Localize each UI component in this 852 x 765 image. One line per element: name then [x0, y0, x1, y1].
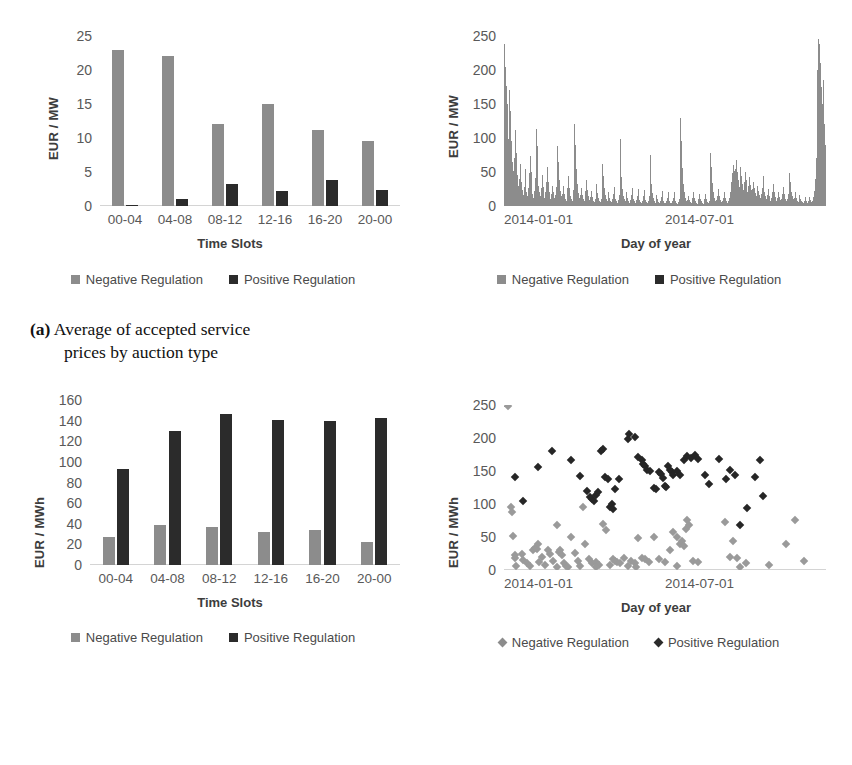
chart-a-bar[interactable]	[126, 205, 138, 206]
chart-c-ytick: 100	[59, 454, 82, 470]
chart-c-ytick: 60	[66, 495, 82, 511]
chart-d-scatter-point	[646, 467, 654, 475]
chart-d-ytick: 150	[473, 463, 496, 479]
chart-a-plot-area	[100, 36, 400, 206]
chart-c-legend-item-positive[interactable]: Positive Regulation	[229, 630, 355, 645]
chart-a-bar[interactable]	[176, 199, 188, 206]
chart-d-scatter-point	[704, 480, 712, 488]
chart-c-bar[interactable]	[258, 532, 270, 565]
chart-d-scatter-point	[666, 546, 674, 554]
chart-a-bar-group	[150, 36, 200, 206]
chart-d-scatter-point	[764, 560, 772, 568]
chart-b-legend-item-positive[interactable]: Positive Regulation	[655, 272, 781, 287]
chart-c-legend-label: Negative Regulation	[86, 630, 203, 645]
chart-a-bar[interactable]	[112, 50, 124, 206]
chart-a-bar-group	[100, 36, 150, 206]
chart-c-bar[interactable]	[220, 414, 232, 565]
chart-a-bar[interactable]	[212, 124, 224, 206]
chart-a-bar[interactable]	[312, 130, 324, 206]
chart-a-bar[interactable]	[362, 141, 374, 206]
chart-d-scatter-point	[676, 471, 684, 479]
chart-a-xtick: 04-08	[158, 212, 193, 227]
chart-a-ytick: 15	[76, 96, 92, 112]
chart-d-legend-item-negative[interactable]: Negative Regulation	[499, 635, 629, 650]
chart-a-xtick: 08-12	[208, 212, 243, 227]
chart-c-yticks: 020406080100120140160	[38, 400, 82, 565]
chart-d-scatter-point	[782, 539, 790, 547]
chart-c-ytick: 160	[59, 392, 82, 408]
square-swatch-icon	[71, 275, 80, 284]
chart-c-bar-group	[90, 400, 142, 565]
chart-a-legend-item-negative[interactable]: Negative Regulation	[71, 272, 203, 287]
chart-b-ytick: 50	[480, 164, 496, 180]
chart-a-bar[interactable]	[226, 184, 238, 206]
chart-b: EUR / MW 050100150200250 2014-01-012014-…	[426, 0, 852, 300]
chart-a-bar-group	[200, 36, 250, 206]
chart-c-bar-group	[297, 400, 349, 565]
chart-c-bar[interactable]	[361, 542, 373, 565]
chart-a-bar-group	[350, 36, 400, 206]
chart-d-scatter-point	[567, 533, 575, 541]
chart-c-ytick: 0	[74, 557, 82, 573]
chart-d-scatter-point	[547, 446, 555, 454]
chart-c-bar[interactable]	[117, 469, 129, 565]
chart-b-xtick: 2014-07-01	[665, 212, 734, 227]
chart-d-legend: Negative RegulationPositive Regulation	[446, 635, 832, 650]
chart-d-scatter-point	[729, 537, 737, 545]
chart-b-ytick: 100	[473, 130, 496, 146]
chart-c-xtick: 12-16	[254, 571, 289, 586]
chart-c-ytick: 140	[59, 413, 82, 429]
chart-d-scatter-point	[519, 497, 527, 505]
chart-c-bar-group	[142, 400, 194, 565]
chart-a-ytick: 20	[76, 62, 92, 78]
chart-c-bar[interactable]	[375, 418, 387, 565]
chart-d-scatter-point	[567, 456, 575, 464]
chart-d-scatter-point	[611, 485, 619, 493]
chart-d-scatter-point	[604, 475, 612, 483]
chart-b-xlabel: Day of year	[486, 236, 826, 251]
chart-c-plot-area	[90, 400, 400, 565]
chart-a-legend-label: Negative Regulation	[86, 272, 203, 287]
chart-d-scatter-point	[736, 521, 744, 529]
chart-c-bar[interactable]	[324, 421, 336, 565]
chart-a-bar-group	[300, 36, 350, 206]
chart-c-bar[interactable]	[169, 431, 181, 565]
chart-c-bar-group	[348, 400, 400, 565]
chart-a-bar[interactable]	[326, 180, 338, 206]
chart-a-bar[interactable]	[276, 191, 288, 206]
panel-d: EUR / MWh 050100150200250 2014-01-012014…	[426, 395, 852, 765]
chart-c-bar[interactable]	[103, 537, 115, 565]
chart-d-legend-item-positive[interactable]: Positive Regulation	[655, 635, 779, 650]
chart-c-bar[interactable]	[309, 530, 321, 565]
chart-b-ytick: 250	[473, 28, 496, 44]
chart-a-bar[interactable]	[262, 104, 274, 206]
chart-d-scatter-point	[720, 518, 728, 526]
caption-a-line2: prices by auction type	[30, 341, 405, 364]
chart-d-yticks: 050100150200250	[452, 405, 496, 570]
chart-c-bar[interactable]	[154, 525, 166, 565]
chart-a-ytick: 25	[76, 28, 92, 44]
chart-d-scatter-point	[800, 557, 808, 565]
chart-d-ytick: 250	[473, 397, 496, 413]
chart-a-legend-item-positive[interactable]: Positive Regulation	[229, 272, 355, 287]
chart-a-legend-label: Positive Regulation	[244, 272, 355, 287]
chart-d-scatter-point	[750, 473, 758, 481]
panel-b: EUR / MW 050100150200250 2014-01-012014-…	[426, 0, 852, 395]
chart-d-scatter-point	[701, 471, 709, 479]
chart-c-bar[interactable]	[206, 527, 218, 565]
chart-d-scatter-point	[722, 475, 730, 483]
chart-b-yticks: 050100150200250	[452, 36, 496, 206]
chart-c-bar-group	[245, 400, 297, 565]
chart-d-legend-label: Positive Regulation	[668, 635, 779, 650]
chart-d-ytick: 0	[488, 562, 496, 578]
chart-c-legend-item-negative[interactable]: Negative Regulation	[71, 630, 203, 645]
chart-a-bar[interactable]	[376, 190, 388, 206]
chart-a-bar[interactable]	[162, 56, 174, 206]
chart-c-legend-label: Positive Regulation	[244, 630, 355, 645]
chart-d-ytick: 200	[473, 430, 496, 446]
chart-c-bar[interactable]	[272, 420, 284, 565]
chart-a-xlabel: Time Slots	[60, 236, 400, 251]
chart-b-legend-item-negative[interactable]: Negative Regulation	[497, 272, 629, 287]
chart-c-xlabel: Time Slots	[60, 595, 400, 610]
chart-d-scatter-point	[651, 485, 659, 493]
